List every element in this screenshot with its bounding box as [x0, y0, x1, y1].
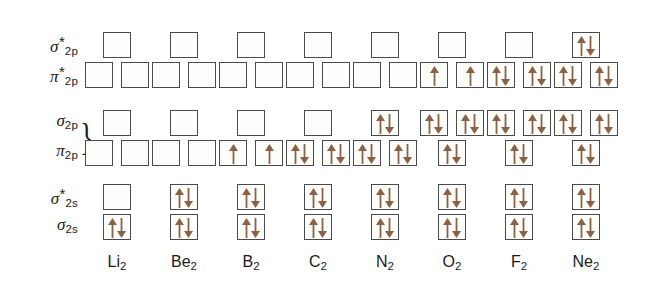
electron-down-arrow-icon	[403, 144, 412, 164]
orbital-symbol: π	[50, 67, 59, 86]
orbital-box-Ne2-sigma-star-2p	[572, 32, 600, 58]
electron-down-arrow-icon	[385, 188, 394, 208]
orbital-box-B2-sigma-star-2s	[237, 184, 265, 210]
electron-down-arrow-icon	[300, 144, 309, 164]
orbital-box-Ne2-sigma-2s	[572, 214, 600, 240]
orbital-box-N2-pi-star-2p-a	[353, 62, 381, 88]
orbital-box-O2-pi-2p-b	[456, 110, 484, 136]
orbital-box-Be2-pi-star-2p-b	[188, 62, 216, 88]
electron-down-arrow-icon	[452, 218, 461, 238]
electron-up-arrow-icon	[394, 144, 403, 164]
electron-up-arrow-icon	[108, 218, 117, 238]
orbital-box-F2-sigma-star-2p	[505, 32, 533, 58]
electron-down-arrow-icon	[519, 144, 528, 164]
orbital-box-F2-pi-star-2p-b	[523, 62, 551, 88]
orbital-box-F2-pi-2p-b	[523, 110, 551, 136]
orbital-box-F2-sigma-2s	[505, 214, 533, 240]
molecule-label-N2: N2	[350, 253, 420, 272]
orbital-box-N2-sigma-star-2p	[371, 32, 399, 58]
orbital-box-C2-pi-2p-b	[322, 140, 350, 166]
electron-up-arrow-icon	[577, 144, 586, 164]
electron-down-arrow-icon	[519, 188, 528, 208]
molecule-subscript: 2	[253, 260, 259, 272]
electron-down-arrow-icon	[385, 114, 394, 134]
electron-up-arrow-icon	[559, 66, 568, 86]
orbital-box-Li2-pi-star-2p-b	[121, 62, 149, 88]
molecule-label-Li2: Li2	[82, 253, 152, 272]
orbital-box-C2-sigma-star-2p	[304, 32, 332, 58]
orbital-box-F2-pi-2p-a	[487, 110, 515, 136]
electron-up-arrow-icon	[443, 188, 452, 208]
orbital-box-Li2-pi-2p-b	[121, 140, 149, 166]
electron-up-arrow-icon	[510, 144, 519, 164]
electron-up-arrow-icon	[577, 218, 586, 238]
electron-up-arrow-icon	[376, 188, 385, 208]
electron-up-arrow-icon	[175, 188, 184, 208]
electron-up-arrow-icon	[559, 114, 568, 134]
orbital-box-Ne2-pi-star-2p-a	[554, 62, 582, 88]
molecule-subscript: 2	[455, 260, 461, 272]
orbital-box-C2-sigma-2p	[304, 110, 332, 136]
element-symbol: O	[443, 253, 455, 270]
electron-up-arrow-icon	[425, 114, 434, 134]
electron-up-arrow-icon	[327, 144, 336, 164]
electron-up-arrow-icon	[309, 218, 318, 238]
electron-down-arrow-icon	[519, 218, 528, 238]
orbital-box-F2-pi-star-2p-a	[487, 62, 515, 88]
electron-up-arrow-icon	[528, 66, 537, 86]
electron-down-arrow-icon	[184, 188, 193, 208]
electron-down-arrow-icon	[586, 36, 595, 56]
electron-up-arrow-icon	[466, 66, 475, 86]
orbital-subscript: 2s	[65, 223, 78, 235]
orbital-box-Li2-sigma-2s	[103, 214, 131, 240]
element-symbol: C	[309, 253, 321, 270]
molecule-subscript: 2	[521, 260, 527, 272]
electron-down-arrow-icon	[501, 66, 510, 86]
molecule-subscript: 2	[120, 260, 126, 272]
electron-down-arrow-icon	[184, 218, 193, 238]
orbital-subscript: 2p	[65, 45, 78, 57]
electron-up-arrow-icon	[175, 218, 184, 238]
electron-up-arrow-icon	[595, 114, 604, 134]
element-symbol: Ne	[573, 253, 593, 270]
electron-up-arrow-icon	[528, 114, 537, 134]
orbital-box-Li2-sigma-star-2s	[103, 184, 131, 210]
electron-down-arrow-icon	[537, 114, 546, 134]
electron-down-arrow-icon	[336, 144, 345, 164]
orbital-box-N2-pi-2p-a	[353, 140, 381, 166]
orbital-box-Be2-pi-2p-a	[152, 140, 180, 166]
orbital-box-Ne2-pi-2p-b	[590, 110, 618, 136]
row-label-pi-2p: π2p	[56, 142, 78, 162]
orbital-box-F2-sigma-star-2s	[505, 184, 533, 210]
electron-down-arrow-icon	[318, 188, 327, 208]
row-label-pi-star-2p: π*2p	[50, 64, 78, 88]
molecule-subscript: 2	[593, 260, 599, 272]
molecule-label-B2: B2	[216, 253, 286, 272]
orbital-box-B2-sigma-2s	[237, 214, 265, 240]
electron-down-arrow-icon	[470, 114, 479, 134]
electron-up-arrow-icon	[229, 144, 238, 164]
orbital-subscript: 2p	[65, 149, 78, 161]
electron-up-arrow-icon	[309, 188, 318, 208]
electron-down-arrow-icon	[385, 218, 394, 238]
electron-down-arrow-icon	[117, 218, 126, 238]
orbital-box-Ne2-pi-2p-a	[554, 110, 582, 136]
electron-up-arrow-icon	[376, 114, 385, 134]
row-label-sigma-star-2s: σ*2s	[51, 186, 78, 210]
orbital-box-C2-sigma-2s	[304, 214, 332, 240]
orbital-box-Ne2-pi-star-2p-b	[590, 62, 618, 88]
row-label-column: σ*2pπ*2pσ2pπ2pσ*2sσ2s	[0, 0, 78, 298]
orbital-box-B2-pi-star-2p-a	[219, 62, 247, 88]
electron-down-arrow-icon	[434, 114, 443, 134]
molecule-label-F2: F2	[484, 253, 554, 272]
electron-down-arrow-icon	[452, 188, 461, 208]
electron-up-arrow-icon	[443, 218, 452, 238]
orbital-box-B2-pi-2p-b	[255, 140, 283, 166]
orbital-box-B2-pi-2p-a	[219, 140, 247, 166]
electron-down-arrow-icon	[251, 218, 260, 238]
orbital-box-C2-pi-star-2p-a	[286, 62, 314, 88]
orbital-box-B2-pi-star-2p-b	[255, 62, 283, 88]
electron-down-arrow-icon	[586, 144, 595, 164]
orbital-symbol: π	[56, 141, 65, 160]
orbital-symbol: σ	[56, 111, 64, 130]
